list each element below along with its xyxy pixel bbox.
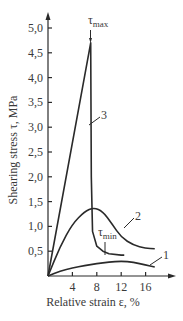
y-tick-label: 3,0 <box>28 120 43 134</box>
y-tick-label: 2,5 <box>28 145 43 159</box>
x-axis-title: Relative strain ε, % <box>46 295 140 309</box>
y-tick-label: 0,5 <box>28 244 43 258</box>
y-tick-label: 4,0 <box>28 71 43 85</box>
curve-3 <box>48 43 124 276</box>
y-tick-label: 2,0 <box>28 170 43 184</box>
y-axis-title: Shearing stress τ, MPa <box>6 95 20 204</box>
y-tick-label: 4,5 <box>28 46 43 60</box>
tau-max-label: τmax <box>88 13 109 29</box>
y-tick-label: 3,5 <box>28 95 43 109</box>
x-tick-label: 4 <box>69 280 75 294</box>
curve-1-leader <box>150 257 162 265</box>
x-tick-label: 8 <box>94 280 100 294</box>
x-axis-arrow-icon <box>168 274 176 279</box>
curve-2-label: 2 <box>135 209 141 223</box>
x-ticks: 481216 <box>69 272 151 294</box>
x-tick-label: 16 <box>140 280 152 294</box>
y-tick-label: 1,0 <box>28 219 43 233</box>
x-axis <box>48 274 176 279</box>
y-tick-label: 5,0 <box>28 21 43 35</box>
curve-3-label: 3 <box>101 108 107 122</box>
curve-1-label: 1 <box>163 248 169 262</box>
curves <box>48 43 155 276</box>
tau-max-arrowhead-icon <box>89 38 92 43</box>
y-axis-arrow-icon <box>46 12 51 20</box>
curve-2-leader <box>124 218 134 228</box>
x-tick-label: 12 <box>115 280 127 294</box>
curve-1 <box>48 261 155 276</box>
y-tick-label: 1,5 <box>28 195 43 209</box>
y-axis <box>46 12 51 276</box>
chart: 0,51,01,52,02,53,03,54,04,55,0 481216 τm… <box>0 0 183 321</box>
